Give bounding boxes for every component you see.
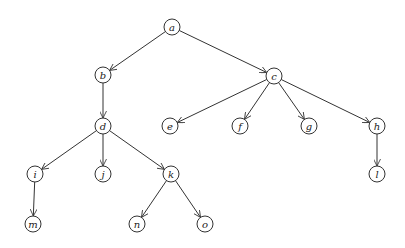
node-label: c — [271, 71, 277, 82]
node-d: d — [95, 118, 111, 134]
node-label: l — [375, 169, 378, 180]
node-o: o — [197, 216, 213, 232]
node-a: a — [164, 19, 180, 35]
node-g: g — [301, 118, 317, 134]
edge-c-g — [279, 83, 305, 120]
node-label: g — [306, 121, 312, 132]
tree-diagram: abcdefghijklmno — [0, 0, 405, 248]
edges-group — [33, 30, 377, 217]
node-label: o — [202, 219, 208, 230]
node-i: i — [27, 166, 43, 182]
node-l: l — [369, 166, 385, 182]
edge-a-b — [110, 32, 166, 71]
node-label: n — [134, 219, 140, 230]
node-j: j — [95, 166, 111, 182]
nodes-group: abcdefghijklmno — [25, 19, 385, 232]
node-n: n — [129, 216, 145, 232]
node-e: e — [162, 118, 178, 134]
edge-d-k — [110, 131, 165, 170]
node-k: k — [163, 166, 179, 182]
node-f: f — [232, 118, 248, 134]
node-label: e — [167, 121, 173, 132]
edge-i-m — [33, 182, 34, 216]
edge-a-c — [179, 30, 267, 72]
node-label: k — [168, 169, 174, 180]
edge-c-h — [281, 79, 370, 122]
node-label: i — [33, 169, 36, 180]
edge-k-n — [141, 181, 166, 218]
node-b: b — [95, 67, 111, 83]
edge-d-i — [42, 131, 97, 170]
node-label: h — [374, 121, 380, 132]
edge-c-e — [177, 79, 267, 122]
node-m: m — [25, 216, 41, 232]
node-label: d — [100, 121, 106, 132]
node-label: m — [28, 219, 37, 230]
node-h: h — [369, 118, 385, 134]
node-label: b — [100, 70, 106, 81]
node-c: c — [266, 68, 282, 84]
node-label: a — [169, 22, 175, 33]
edge-k-o — [175, 181, 200, 218]
